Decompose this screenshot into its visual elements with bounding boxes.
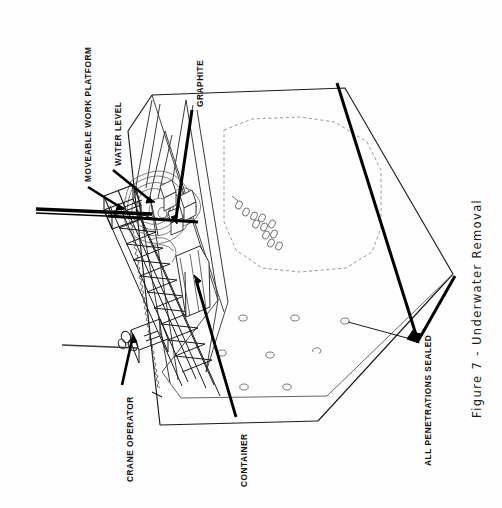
label-water-level: WATER LEVEL [114,102,122,166]
inner-dashed-outline [224,117,381,272]
figure-caption: Figure 7 - Underwater Removal [472,199,484,418]
floor-penetration-holes [218,315,349,390]
figure-container: MOVEABLE WORK PLATFORM WATER LEVEL GRAPH… [0,0,502,508]
penetration-cluster [232,196,284,251]
label-container: CONTAINER [240,433,248,487]
leader-lines [88,83,455,417]
label-graphite: GRAPHITE [196,60,204,107]
label-all-penetrations-sealed: ALL PENETRATIONS SEALED [424,335,432,466]
crane-operator-cab [117,319,168,363]
label-crane-operator: CRANE OPERATOR [126,396,134,482]
label-moveable-work-platform: MOVEABLE WORK PLATFORM [84,47,92,182]
